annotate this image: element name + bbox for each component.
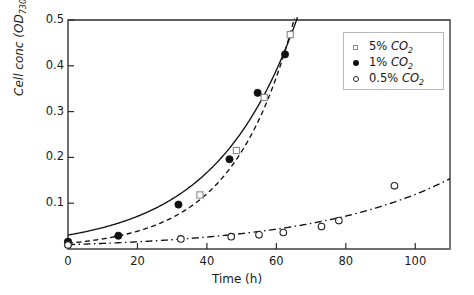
open-circle-glyph [353, 76, 359, 82]
legend-marker-open-square-icon [353, 45, 366, 50]
legend-label-prefix-0: 5% [369, 39, 391, 53]
marker-0.5co2-4 [280, 229, 287, 236]
fit-curve-1co2 [68, 17, 298, 235]
fit-curve-5co2 [68, 18, 294, 243]
y-axis-title: Cell conc (OD730) [8, 0, 28, 110]
y-tick-label-0.2: 0.2 [36, 149, 64, 163]
marker-0.5co2-5 [318, 223, 325, 230]
legend-label-2: 0.5% CO2 [369, 71, 424, 87]
legend-item-1: 1% CO2 [344, 55, 443, 71]
y-axis-title-subscript: 730 [18, 0, 28, 14]
figure-container: 0.10.20.30.40.5 020406080100 Cell conc (… [0, 0, 474, 295]
marker-0.5co2-3 [256, 232, 263, 239]
marker-0.5co2-2 [228, 233, 235, 240]
legend-label-1: 1% CO2 [369, 55, 413, 71]
marker-0.5co2-0 [65, 242, 72, 249]
y-tick-label-0.5: 0.5 [36, 12, 64, 26]
open-square-glyph [353, 45, 358, 50]
marker-5co2-3 [261, 94, 267, 100]
legend-box: 5% CO21% CO20.5% CO2 [343, 32, 444, 90]
legend-label-gas-2: CO [402, 71, 419, 85]
x-tick-label-20: 20 [117, 254, 157, 268]
legend-marker-open-circle-icon [353, 76, 366, 82]
legend-label-prefix-1: 1% [369, 55, 391, 69]
legend-marker-filled-circle-icon [353, 60, 366, 66]
legend-label-0: 5% CO2 [369, 39, 413, 55]
legend-label-gas-0: CO [391, 39, 408, 53]
y-tick-label-0.4: 0.4 [36, 58, 64, 72]
marker-1co2-1 [115, 232, 122, 239]
y-tick-label-0.3: 0.3 [36, 104, 64, 118]
legend-item-0: 5% CO2 [344, 39, 443, 55]
marker-0.5co2-1 [178, 236, 185, 243]
x-axis-title-text: Time (h) [212, 272, 262, 286]
marker-1co2-4 [254, 89, 261, 96]
filled-circle-glyph [353, 60, 359, 66]
marker-5co2-1 [197, 192, 203, 198]
x-tick-label-0: 0 [48, 254, 88, 268]
marker-5co2-4 [287, 32, 293, 38]
legend-item-2: 0.5% CO2 [344, 71, 443, 87]
x-tick-label-40: 40 [187, 254, 227, 268]
marker-5co2-2 [233, 147, 239, 153]
y-tick-label-0.1: 0.1 [36, 195, 64, 209]
legend-label-subscript-1: 2 [408, 62, 413, 71]
marker-1co2-2 [175, 201, 182, 208]
x-axis-title: Time (h) [0, 268, 474, 287]
legend-label-subscript-0: 2 [408, 46, 413, 55]
legend-label-gas-1: CO [391, 55, 408, 69]
marker-1co2-3 [226, 156, 233, 163]
legend-label-prefix-2: 0.5% [369, 71, 402, 85]
x-tick-label-100: 100 [395, 254, 435, 268]
x-tick-label-60: 60 [256, 254, 296, 268]
x-tick-label-80: 80 [326, 254, 366, 268]
marker-0.5co2-7 [391, 182, 398, 189]
marker-1co2-5 [281, 51, 288, 58]
legend-label-subscript-2: 2 [419, 78, 424, 87]
marker-0.5co2-6 [336, 217, 343, 224]
y-axis-title-base: Cell conc (OD [12, 14, 26, 96]
